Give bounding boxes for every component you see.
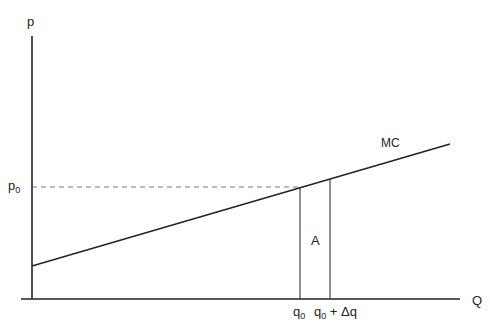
q0-label: q0 — [293, 305, 305, 318]
y-axis-label: p — [27, 15, 34, 28]
area-a-label: A — [311, 234, 320, 247]
diagram-canvas — [0, 0, 490, 330]
x-axis-label: Q — [472, 294, 482, 307]
mc-curve — [32, 144, 450, 266]
p0-label: p0 — [8, 179, 20, 192]
q0-plus-dq-label: q0 + Δq — [314, 305, 357, 318]
mc-label: MC — [381, 137, 400, 149]
